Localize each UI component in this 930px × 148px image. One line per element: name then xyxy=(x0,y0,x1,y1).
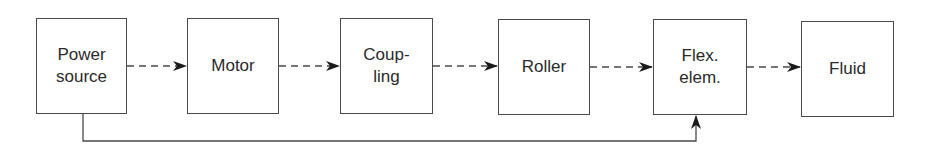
block-motor: Motor xyxy=(187,18,279,114)
block-flex-element: Flex. elem. xyxy=(653,19,747,115)
arrow-power-to-flex-feedback xyxy=(83,114,696,141)
block-coupling: Coup- ling xyxy=(340,18,433,114)
block-roller: Roller xyxy=(498,19,590,115)
block-label: Roller xyxy=(522,56,566,78)
block-label: Coup- ling xyxy=(363,44,409,88)
block-label: Motor xyxy=(211,55,254,77)
block-label: Fluid xyxy=(829,58,866,80)
block-label: Flex. elem. xyxy=(679,45,721,89)
block-power-source: Power source xyxy=(36,18,127,114)
block-label: Power source xyxy=(56,44,107,88)
block-fluid: Fluid xyxy=(801,21,894,117)
connections-layer xyxy=(0,0,930,148)
